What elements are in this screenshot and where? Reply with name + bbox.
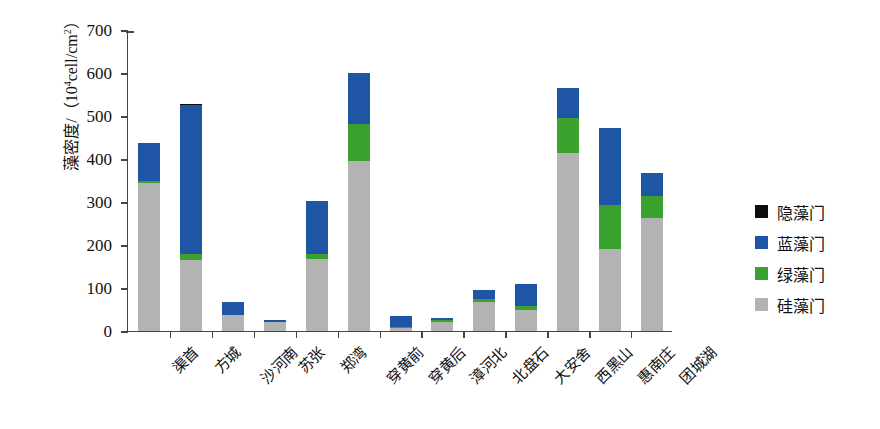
legend-label: 蓝藻门: [777, 231, 825, 255]
bar-segment-硅藻门: [557, 153, 579, 331]
bar-segment-硅藻门: [180, 260, 202, 331]
x-tick: [463, 331, 464, 338]
legend-label: 隐藻门: [777, 200, 825, 224]
y-axis-exponent: 4: [62, 81, 73, 86]
y-tick-label: 500: [52, 108, 112, 125]
legend-label: 硅藻门: [777, 293, 825, 317]
bar-segment-硅藻门: [222, 315, 244, 331]
bar-segment-蓝藻门: [599, 128, 621, 205]
bar-segment-绿藻门: [599, 205, 621, 249]
legend-label: 绿藻门: [777, 262, 825, 286]
bar-stack[interactable]: [138, 143, 160, 331]
y-tick: [121, 30, 128, 31]
bar-segment-蓝藻门: [180, 105, 202, 253]
bar-stack[interactable]: [599, 128, 621, 331]
x-axis-label: 郑湾: [334, 341, 370, 377]
bar-segment-硅藻门: [138, 183, 160, 331]
x-tick: [547, 331, 548, 338]
y-tick-label: 100: [52, 280, 112, 297]
y-tick-label: 300: [52, 194, 112, 211]
bar-segment-绿藻门: [641, 196, 663, 218]
bar-segment-蓝藻门: [306, 201, 328, 253]
x-tick: [421, 331, 422, 338]
y-tick: [121, 288, 128, 289]
y-tick: [121, 73, 128, 74]
x-axis-label: 惠南庄: [632, 341, 679, 388]
bar-segment-硅藻门: [473, 302, 495, 331]
legend-swatch-icon: [755, 267, 768, 280]
x-axis-label: 方城: [209, 341, 245, 377]
bar-segment-绿藻门: [557, 118, 579, 153]
bar-stack[interactable]: [264, 320, 286, 331]
y-tick-label: 600: [52, 65, 112, 82]
y-tick: [121, 159, 128, 160]
x-tick: [338, 331, 339, 338]
plot-area: [127, 31, 672, 332]
x-tick: [589, 331, 590, 338]
bar-segment-蓝藻门: [348, 73, 370, 124]
algae-density-stacked-bar-chart: 藻密度/（104cell/cm2） 渠首方城沙河南苏张郑湾穿黄前穿黄后漳河北北盘…: [0, 0, 880, 429]
x-tick: [212, 331, 213, 338]
bar-stack[interactable]: [180, 104, 202, 331]
x-tick: [505, 331, 506, 338]
bar-stack[interactable]: [390, 316, 412, 331]
legend-item[interactable]: 绿藻门: [755, 258, 875, 289]
bar-stack[interactable]: [515, 284, 537, 331]
x-tick: [170, 331, 171, 338]
bar-segment-硅藻门: [599, 249, 621, 331]
legend: 隐藻门蓝藻门绿藻门硅藻门: [755, 196, 875, 320]
x-tick: [254, 331, 255, 338]
bar-segment-硅藻门: [264, 322, 286, 331]
bar-segment-硅藻门: [431, 322, 453, 331]
bar-segment-硅藻门: [306, 259, 328, 331]
x-axis-label: 苏张: [293, 341, 329, 377]
bar-segment-蓝藻门: [222, 302, 244, 315]
y-tick-label: 200: [52, 237, 112, 254]
bar-segment-蓝藻门: [641, 173, 663, 196]
bar-segment-硅藻门: [348, 161, 370, 331]
legend-swatch-icon: [755, 205, 768, 218]
bar-stack[interactable]: [348, 73, 370, 331]
bar-segment-蓝藻门: [557, 88, 579, 118]
bar-segment-绿藻门: [348, 124, 370, 161]
x-tick: [380, 331, 381, 338]
bar-segment-硅藻门: [515, 310, 537, 332]
bar-segment-硅藻门: [641, 218, 663, 331]
bar-stack[interactable]: [557, 88, 579, 331]
x-tick: [631, 331, 632, 338]
legend-item[interactable]: 硅藻门: [755, 289, 875, 320]
legend-swatch-icon: [755, 298, 768, 311]
bar-stack[interactable]: [306, 201, 328, 331]
y-tick-label: 0: [52, 323, 112, 340]
bar-stack[interactable]: [473, 290, 495, 331]
x-axis-label: 漳河北: [465, 341, 512, 388]
x-axis-label: 穿黄前: [381, 341, 428, 388]
x-axis-label: 北盘石: [507, 341, 554, 388]
bar-series-container: [128, 31, 672, 331]
y-tick-label: 400: [52, 151, 112, 168]
legend-item[interactable]: 隐藻门: [755, 196, 875, 227]
y-tick: [121, 245, 128, 246]
x-axis-label: 穿黄后: [423, 341, 470, 388]
y-tick: [121, 202, 128, 203]
bar-segment-蓝藻门: [473, 290, 495, 299]
x-axis-label: 团城湖: [674, 341, 721, 388]
x-axis-label: 渠首: [167, 341, 203, 377]
y-tick-label: 700: [52, 22, 112, 39]
bar-stack[interactable]: [431, 318, 453, 331]
bar-segment-蓝藻门: [390, 316, 412, 327]
legend-item[interactable]: 蓝藻门: [755, 227, 875, 258]
y-tick: [121, 331, 128, 332]
bar-segment-硅藻门: [390, 328, 412, 331]
y-tick: [121, 116, 128, 117]
bar-stack[interactable]: [641, 173, 663, 331]
x-axis-label: 西黑山: [590, 341, 637, 388]
x-tick: [296, 331, 297, 338]
bar-stack[interactable]: [222, 302, 244, 331]
bar-segment-蓝藻门: [515, 284, 537, 306]
bar-segment-蓝藻门: [138, 143, 160, 180]
x-axis-label: 大安舍: [548, 341, 595, 388]
legend-swatch-icon: [755, 236, 768, 249]
